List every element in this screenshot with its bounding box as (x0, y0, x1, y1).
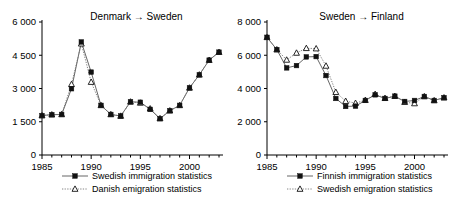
data-point-square (69, 86, 74, 91)
data-point-square (177, 103, 182, 108)
y-tick-label: 0 (31, 149, 36, 160)
data-point-square (217, 50, 222, 55)
data-point-square (294, 63, 299, 68)
data-point-triangle (303, 45, 309, 50)
data-point-square (79, 40, 84, 45)
data-point-square (138, 100, 143, 105)
data-point-square (158, 116, 163, 121)
series-line-2 (267, 37, 444, 103)
legend-entry-1: Swedish immigration statistics (62, 171, 213, 181)
figure-two-panel-line-charts: Denmark → Sweden01 5003 0004 5006 000198… (0, 0, 450, 209)
legend-label: Swedish emigration statistics (317, 184, 433, 194)
y-tick-label: 6 000 (237, 50, 261, 61)
data-point-triangle (333, 89, 339, 94)
data-point-square (40, 113, 45, 118)
y-tick-label: 8 000 (237, 16, 261, 27)
data-point-square (197, 72, 202, 77)
x-tick-label: 1985 (31, 161, 52, 172)
data-point-square (363, 98, 368, 103)
data-point-square (432, 98, 437, 103)
y-tick-label: 2 000 (237, 116, 261, 127)
y-tick-label: 4 000 (237, 83, 261, 94)
data-point-square (99, 103, 104, 108)
legend-entry-2: Danish emigration statistics (62, 184, 202, 194)
legend-label: Danish emigration statistics (92, 184, 202, 194)
data-point-square (118, 114, 123, 119)
data-point-square (324, 73, 329, 78)
legend-marker-square (298, 174, 303, 179)
legend-label: Finnish immigration statistics (317, 171, 433, 181)
data-point-square (442, 95, 447, 100)
data-point-square (334, 96, 339, 101)
y-tick-label: 3 000 (12, 83, 36, 94)
data-point-square (383, 96, 388, 101)
data-point-triangle (294, 50, 300, 55)
chart-panel-1: Denmark → Sweden01 5003 0004 5006 000198… (0, 0, 225, 209)
data-point-square (304, 55, 309, 60)
data-point-square (402, 99, 407, 104)
chart-panel-2: Sweden → Finland02 0004 0006 0008 000198… (225, 0, 450, 209)
legend-entry-1: Finnish immigration statistics (287, 171, 433, 181)
data-point-square (353, 104, 358, 109)
data-point-square (284, 66, 289, 71)
data-point-triangle (323, 63, 329, 68)
data-point-square (412, 98, 417, 103)
data-point-square (128, 100, 133, 105)
y-tick-label: 4 500 (12, 50, 36, 61)
y-tick-label: 1 500 (12, 116, 36, 127)
data-point-square (148, 107, 153, 112)
chart-title: Denmark → Sweden (90, 11, 182, 22)
data-point-square (343, 104, 348, 109)
series-line-1 (267, 37, 444, 106)
data-point-square (373, 93, 378, 98)
data-point-square (50, 112, 55, 117)
chart-title: Sweden → Finland (319, 11, 404, 22)
data-point-square (265, 35, 270, 40)
data-point-square (109, 112, 114, 117)
data-point-square (275, 47, 280, 52)
chart-svg-1: Denmark → Sweden01 5003 0004 5006 000198… (0, 0, 225, 209)
data-point-square (207, 58, 212, 63)
y-tick-label: 0 (256, 149, 261, 160)
data-point-triangle (69, 81, 75, 86)
data-point-triangle (343, 98, 349, 103)
data-point-square (168, 108, 173, 113)
series-line-1 (42, 42, 219, 119)
legend-marker-square (73, 174, 78, 179)
legend-entry-2: Swedish emigration statistics (287, 184, 433, 194)
data-point-square (422, 94, 427, 99)
y-tick-label: 6 000 (12, 16, 36, 27)
legend-label: Swedish immigration statistics (92, 171, 213, 181)
data-point-square (89, 70, 94, 75)
data-point-square (314, 54, 319, 59)
data-point-square (393, 94, 398, 99)
x-tick-label: 1985 (256, 161, 277, 172)
data-point-square (59, 112, 64, 117)
series-line-2 (42, 44, 219, 119)
chart-svg-2: Sweden → Finland02 0004 0006 0008 000198… (225, 0, 450, 209)
data-point-square (187, 86, 192, 91)
